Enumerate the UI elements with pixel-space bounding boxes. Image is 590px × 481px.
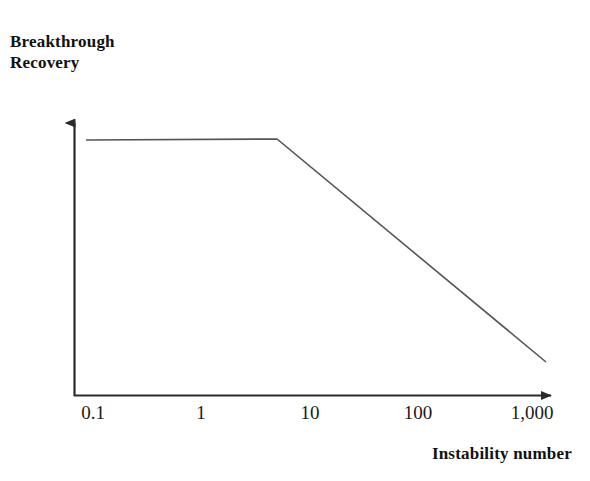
x-tick-label-0: 0.1 <box>81 401 105 425</box>
x-tick-label-4: 1,000 <box>511 401 554 425</box>
x-axis-title: Instability number <box>0 444 572 464</box>
x-tick-label-2: 10 <box>301 401 320 425</box>
data-series-breakthrough-recovery <box>86 139 546 362</box>
x-tick-label-3: 100 <box>404 401 433 425</box>
chart-figure: Breakthrough Recovery 0.1 1 10 100 1,000… <box>0 0 590 481</box>
x-tick-label-1: 1 <box>196 401 206 425</box>
